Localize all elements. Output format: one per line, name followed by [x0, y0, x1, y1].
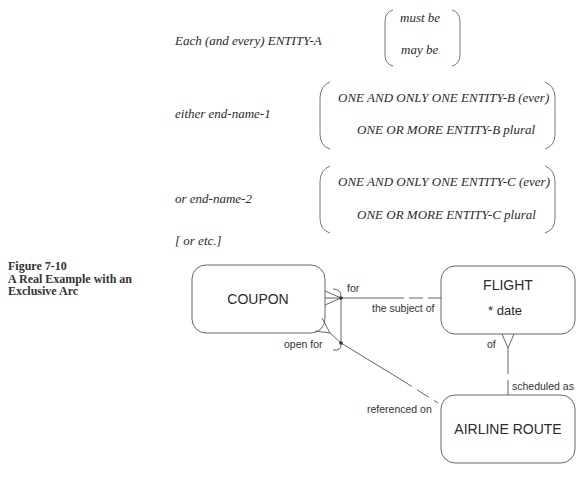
- entity-flight-name: FLIGHT: [483, 277, 533, 293]
- relationship-coupon-flight: for the subject of: [325, 282, 441, 314]
- entity-coupon-name: COUPON: [227, 291, 288, 307]
- either-bracket: [320, 82, 555, 149]
- entity-flight[interactable]: FLIGHT * date: [441, 266, 575, 334]
- label-referenced-on: referenced on: [367, 403, 432, 415]
- relationship-flight-route: of scheduled as: [487, 334, 574, 395]
- entity-airline-route[interactable]: AIRLINE ROUTE: [441, 395, 575, 463]
- er-diagram: COUPON FLIGHT * date AIRLINE ROUTE for t…: [0, 0, 584, 482]
- modality-bracket: [385, 10, 460, 66]
- entity-airline-route-name: AIRLINE ROUTE: [454, 421, 561, 437]
- entity-flight-attribute: * date: [488, 303, 522, 318]
- label-scheduled-as: scheduled as: [512, 380, 574, 392]
- entity-coupon[interactable]: COUPON: [192, 265, 325, 333]
- label-open-for: open for: [284, 338, 323, 350]
- label-for: for: [347, 282, 360, 294]
- label-the-subject-of: the subject of: [372, 302, 435, 314]
- or-bracket: [320, 166, 555, 233]
- label-of: of: [487, 338, 496, 350]
